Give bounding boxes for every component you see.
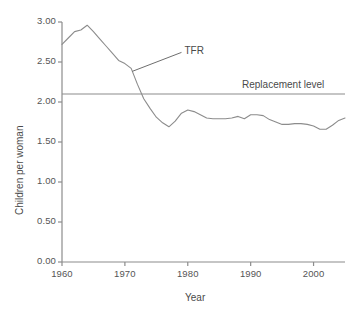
x-axis-tick-label: 1970 (105, 268, 145, 279)
tfr-series-label: TFR (184, 45, 203, 56)
x-axis-tick-label: 1960 (42, 268, 82, 279)
y-axis-tick-label: 3.00 (14, 15, 56, 26)
x-axis-tick-label: 2000 (294, 268, 334, 279)
x-axis-tick-label: 1980 (168, 268, 208, 279)
replacement-level-label: Replacement level (242, 79, 324, 90)
chart-container: 0.000.501.001.502.002.503.00 19601970198… (0, 0, 352, 316)
x-axis-title: Year (185, 292, 205, 303)
y-axis-title: Children per woman (14, 126, 25, 216)
y-axis-tick-label: 2.50 (14, 55, 56, 66)
y-axis-tick-label: 0.00 (14, 255, 56, 266)
y-axis-tick-label: 0.50 (14, 215, 56, 226)
tfr-data-line (62, 25, 345, 129)
tfr-annotation-leader-line (132, 52, 181, 71)
x-axis-tick-label: 1990 (231, 268, 271, 279)
y-axis-tick-label: 2.00 (14, 95, 56, 106)
